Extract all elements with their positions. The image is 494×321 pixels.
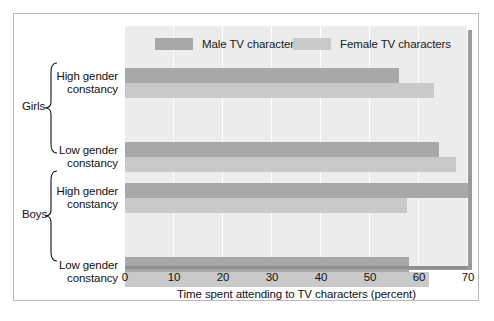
x-axis-title: Time spent attending to TV characters (p…	[125, 288, 468, 300]
category-label-line1: Low gender	[59, 144, 118, 156]
category-label-line2: constancy	[26, 83, 118, 96]
bar-girls-high-female	[125, 83, 434, 98]
category-label-line1: High gender	[56, 185, 118, 197]
x-tick-label: 50	[364, 271, 377, 283]
plot-panel-shadow-right	[468, 30, 472, 270]
legend-entry-male: Male TV characters	[155, 34, 300, 54]
x-axis-line	[125, 266, 468, 269]
category-label-boys-low: Low gender constancy	[26, 259, 118, 285]
bar-boys-low-male	[125, 257, 409, 272]
x-tick-label: 20	[217, 271, 230, 283]
category-label-girls-low: Low gender constancy	[26, 144, 118, 170]
x-tick-label: 0	[122, 271, 128, 283]
bar-girls-low-male	[125, 142, 439, 157]
legend-swatch-female	[293, 38, 331, 50]
category-labels-column: High gender constancy Low gender constan…	[18, 26, 118, 266]
group-brace-boys	[44, 170, 58, 262]
bar-girls-low-female	[125, 157, 456, 172]
category-label-line2: constancy	[26, 157, 118, 170]
gridline	[467, 26, 468, 266]
x-tick-label: 70	[462, 271, 475, 283]
x-tick-label: 40	[315, 271, 328, 283]
plot-area	[125, 26, 468, 266]
group-label-girls: Girls	[22, 100, 45, 112]
category-label-line2: constancy	[26, 272, 118, 285]
legend-entry-female: Female TV characters	[293, 34, 451, 54]
bar-girls-high-male	[125, 68, 399, 83]
chart-legend: Male TV characters Female TV characters	[125, 34, 468, 54]
legend-swatch-male	[155, 38, 193, 50]
category-label-line1: High gender	[56, 70, 118, 82]
category-label-line1: Low gender	[59, 259, 118, 271]
x-tick-label: 60	[413, 271, 426, 283]
group-brace-girls	[44, 62, 58, 154]
legend-label-female: Female TV characters	[340, 38, 451, 50]
legend-label-male: Male TV characters	[202, 38, 300, 50]
x-tick-label: 10	[168, 271, 181, 283]
bar-boys-high-female	[125, 198, 407, 213]
figure-container: Male TV characters Female TV characters …	[0, 0, 494, 321]
bar-boys-high-male	[125, 183, 468, 198]
x-tick-label: 30	[266, 271, 279, 283]
category-label-girls-high: High gender constancy	[26, 70, 118, 96]
